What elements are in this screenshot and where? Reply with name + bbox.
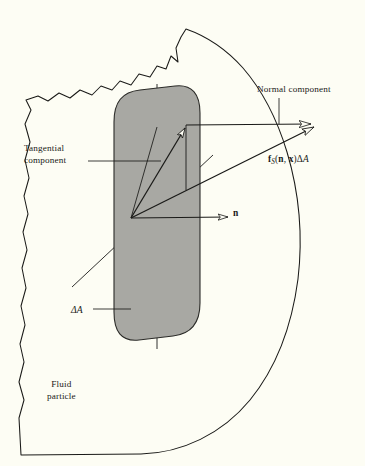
force-area-symbol: A (303, 154, 309, 164)
cut-plane-area (114, 86, 200, 340)
label-tangential-component: Tangential component (24, 143, 66, 166)
label-tangential-component-line1: Tangential (24, 143, 66, 155)
figure-root: Normal component Tangential component Fl… (0, 0, 365, 466)
label-fluid-particle: Fluid particle (47, 379, 76, 402)
label-delta-area: ΔA (71, 304, 83, 315)
label-normal-component: Normal component (257, 84, 331, 95)
label-fluid-particle-line1: Fluid (47, 379, 76, 391)
label-force-vector: fS(n, x)ΔA (268, 154, 309, 168)
label-unit-normal: n (233, 208, 238, 219)
label-fluid-particle-line2: particle (47, 391, 76, 403)
normal-component-vector (186, 124, 311, 125)
label-tangential-component-line2: component (24, 155, 66, 167)
